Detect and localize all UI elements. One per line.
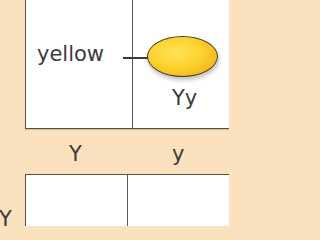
- punnett-row-bottom: [25, 174, 229, 226]
- genotype-label: Yy: [172, 88, 197, 109]
- yellow-seed-icon: [147, 36, 218, 77]
- cell-divider: [132, 0, 133, 128]
- allele-side-dominant: Y: [0, 209, 12, 226]
- allele-header-dominant: Y: [69, 144, 82, 165]
- phenotype-label: yellow: [37, 44, 104, 65]
- cell-divider: [127, 175, 128, 226]
- allele-header-recessive: y: [172, 144, 184, 165]
